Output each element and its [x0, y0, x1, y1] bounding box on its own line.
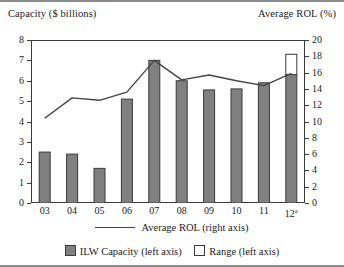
x-axis-label: 05: [87, 206, 113, 216]
left-tick-label: 6: [19, 76, 24, 86]
x-axis-label: 06: [114, 206, 140, 216]
capacity-bar: [39, 152, 50, 203]
left-axis-title: Capacity ($ billions): [8, 8, 96, 19]
right-tick-label: 18: [312, 51, 322, 61]
left-tick: [27, 203, 31, 204]
right-tick: [305, 89, 309, 90]
x-axis-label: 07: [141, 206, 167, 216]
x-axis-label: 10: [224, 206, 250, 216]
left-tick-label: 0: [19, 198, 24, 208]
right-tick-label: 20: [312, 35, 322, 45]
chart-plot-area: 012345678 02468101214161820 030405060708…: [31, 40, 305, 203]
right-tick-label: 2: [312, 182, 317, 192]
right-tick-label: 8: [312, 133, 317, 143]
left-tick: [27, 142, 31, 143]
left-tick-label: 3: [19, 137, 24, 147]
x-axis-label: 04: [59, 206, 85, 216]
right-tick: [305, 203, 309, 204]
left-tick: [27, 122, 31, 123]
right-tick: [305, 56, 309, 57]
right-tick: [305, 187, 309, 188]
capacity-bar: [231, 89, 242, 203]
capacity-bar: [258, 83, 269, 203]
bar-swatch-icon: [65, 245, 76, 256]
capacity-bar: [204, 90, 215, 203]
legend-line-series: Average ROL (right axis): [0, 222, 344, 233]
right-tick: [305, 170, 309, 171]
left-tick: [27, 40, 31, 41]
legend-bar-series: ILW Capacity (left axis) Range (left axi…: [0, 245, 344, 257]
range-bar: [286, 54, 297, 74]
left-tick: [27, 60, 31, 61]
capacity-bar: [176, 81, 187, 203]
x-axis-label: 09: [196, 206, 222, 216]
right-axis-title: Average ROL (%): [258, 8, 336, 19]
right-tick-label: 10: [312, 117, 322, 127]
chart-canvas: [31, 40, 305, 203]
left-tick-label: 7: [19, 55, 24, 65]
right-tick: [305, 138, 309, 139]
left-tick-label: 5: [19, 96, 24, 106]
left-tick: [27, 81, 31, 82]
legend-line-label: Average ROL (right axis): [141, 222, 248, 233]
capacity-bar: [67, 154, 78, 203]
right-tick-label: 16: [312, 68, 322, 78]
rol-line: [45, 60, 292, 118]
right-tick-label: 14: [312, 84, 322, 94]
left-tick-label: 2: [19, 157, 24, 167]
legend-range-label: Range (left axis): [209, 246, 279, 257]
left-tick-label: 4: [19, 117, 24, 127]
x-axis-label: 03: [32, 206, 58, 216]
legend-bar-label: ILW Capacity (left axis): [80, 246, 182, 257]
x-axis-label: 12a: [278, 206, 304, 219]
left-tick: [27, 183, 31, 184]
x-axis-label: 08: [169, 206, 195, 216]
right-tick: [305, 154, 309, 155]
left-tick-label: 8: [19, 35, 24, 45]
right-tick-label: 4: [312, 165, 317, 175]
right-tick: [305, 73, 309, 74]
capacity-bar: [149, 60, 160, 203]
capacity-bar: [121, 99, 132, 203]
right-tick: [305, 40, 309, 41]
legend-item-ilw-capacity: ILW Capacity (left axis): [65, 245, 182, 257]
top-divider: [0, 0, 344, 2]
right-tick: [305, 122, 309, 123]
line-swatch-icon: [95, 227, 135, 228]
capacity-bar: [94, 168, 105, 203]
range-swatch-icon: [194, 245, 205, 256]
right-tick-label: 0: [312, 198, 317, 208]
footnote-marker: a: [295, 207, 298, 214]
left-tick: [27, 162, 31, 163]
left-tick-label: 1: [19, 178, 24, 188]
x-axis-label: 11: [251, 206, 277, 216]
legend-item-range: Range (left axis): [194, 245, 279, 257]
left-tick: [27, 101, 31, 102]
capacity-bar: [286, 75, 297, 203]
right-tick-label: 12: [312, 100, 322, 110]
right-tick: [305, 105, 309, 106]
right-tick-label: 6: [312, 149, 317, 159]
